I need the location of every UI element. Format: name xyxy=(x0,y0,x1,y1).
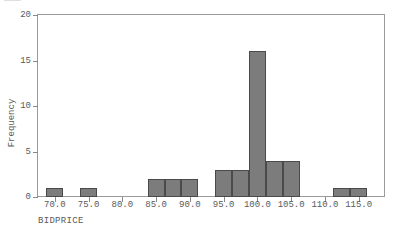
y-tick-label: 20 xyxy=(0,11,31,20)
x-tick-label: 100.0 xyxy=(244,200,271,210)
histogram-bar xyxy=(80,188,97,197)
clipped-header-text: ___ xyxy=(4,0,21,3)
histogram-bar xyxy=(215,170,232,197)
x-tick-label: 80.0 xyxy=(112,200,134,210)
histogram-bar xyxy=(283,161,300,197)
y-tick-label: 15 xyxy=(0,57,31,66)
x-tick-label: 85.0 xyxy=(145,200,167,210)
histogram-bar xyxy=(266,161,283,197)
y-tick-label: 0 xyxy=(0,193,31,202)
histogram-bar xyxy=(350,188,367,197)
x-tick-label: 115.0 xyxy=(345,200,372,210)
x-tick-label: 110.0 xyxy=(311,200,338,210)
x-tick-label: 95.0 xyxy=(213,200,235,210)
x-tick-label: 90.0 xyxy=(179,200,201,210)
histogram-bar xyxy=(249,51,266,197)
x-axis-title: BIDPRICE xyxy=(38,216,84,226)
histogram-bar xyxy=(181,179,198,197)
y-axis-title: Frequency xyxy=(7,93,17,153)
histogram-bar xyxy=(333,188,350,197)
histogram-bar xyxy=(46,188,63,197)
x-tick-label: 75.0 xyxy=(78,200,100,210)
bars-layer xyxy=(38,15,384,197)
histogram-bar xyxy=(232,170,249,197)
y-tick-mark xyxy=(33,197,38,198)
histogram-chart: ___ 05101520 70.075.080.085.090.095.0100… xyxy=(0,0,393,235)
x-tick-label: 70.0 xyxy=(44,200,66,210)
histogram-bar xyxy=(165,179,182,197)
x-tick-label: 105.0 xyxy=(278,200,305,210)
histogram-bar xyxy=(148,179,165,197)
